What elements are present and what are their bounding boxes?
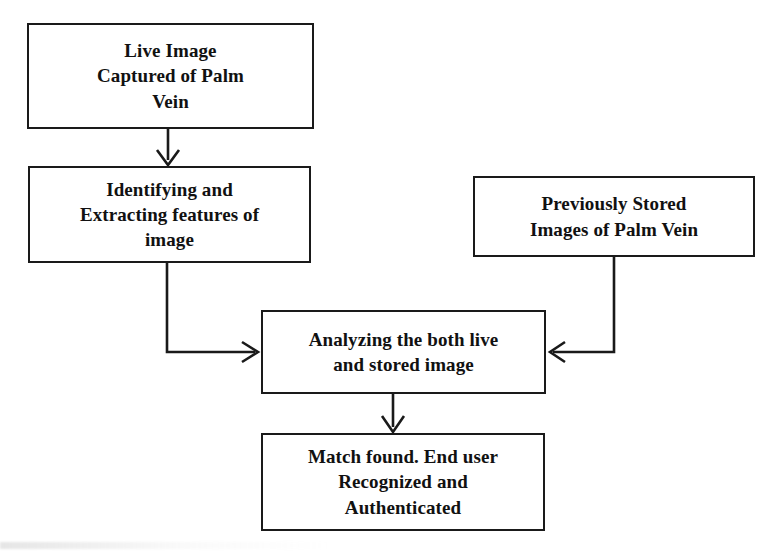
node-live-image-label: Live Image Captured of Palm Vein — [97, 38, 244, 113]
node-match-found: Match found. End user Recognized and Aut… — [261, 433, 545, 531]
node-identifying-extracting-label: Identifying and Extracting features of i… — [80, 177, 259, 252]
node-previously-stored: Previously Stored Images of Palm Vein — [473, 176, 755, 257]
edge-identify-to-analyze — [167, 263, 258, 362]
node-match-found-label: Match found. End user Recognized and Aut… — [308, 444, 498, 519]
node-live-image: Live Image Captured of Palm Vein — [27, 23, 314, 129]
edge-analyze-to-match — [382, 394, 404, 432]
node-analyzing-label: Analyzing the both live and stored image — [309, 327, 499, 377]
node-analyzing: Analyzing the both live and stored image — [261, 310, 546, 394]
scan-artifact — [0, 542, 330, 549]
edge-stored-to-analyze — [550, 257, 614, 362]
flowchart-canvas: Live Image Captured of Palm Vein Identif… — [0, 0, 776, 554]
node-previously-stored-label: Previously Stored Images of Palm Vein — [530, 191, 698, 241]
edge-live-to-identify — [157, 129, 179, 165]
node-identifying-extracting: Identifying and Extracting features of i… — [28, 166, 311, 263]
